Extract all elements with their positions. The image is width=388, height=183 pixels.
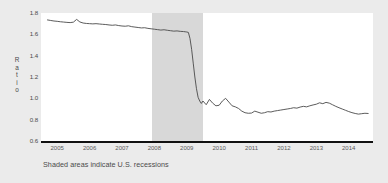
y-axis-title-char: i: [12, 79, 22, 87]
y-tick-label: 1.0: [30, 95, 38, 101]
y-axis-title-char: R: [12, 56, 22, 64]
x-tick-label: 2011: [245, 145, 258, 151]
y-axis-title: Ratio: [12, 56, 22, 94]
y-tick-label: 0.6: [30, 138, 38, 144]
y-axis-tick-labels: 1.81.61.41.21.00.80.6: [22, 0, 38, 183]
y-tick-label: 1.8: [30, 10, 38, 16]
x-axis-line: [41, 141, 373, 143]
y-axis-title-char: t: [12, 71, 22, 79]
recession-annotation: Shaded areas indicate U.S. recessions: [43, 160, 169, 169]
y-axis-title-char: o: [12, 86, 22, 94]
y-tick-label: 1.4: [30, 53, 38, 59]
x-tick-label: 2005: [51, 145, 64, 151]
y-tick-label: 0.8: [30, 117, 38, 123]
x-tick-label: 2013: [310, 145, 323, 151]
x-axis-tick-labels: 2005200620072008200920102011201220132014: [41, 145, 373, 157]
x-tick-label: 2006: [83, 145, 96, 151]
y-axis-title-char: a: [12, 64, 22, 72]
chart-figure: Ratio 1.81.61.41.21.00.80.6 200520062007…: [0, 0, 388, 183]
plot-area: [41, 13, 373, 141]
x-tick-label: 2008: [148, 145, 161, 151]
x-tick-label: 2007: [115, 145, 128, 151]
x-tick-label: 2014: [342, 145, 355, 151]
x-tick-label: 2009: [180, 145, 193, 151]
y-tick-label: 1.6: [30, 31, 38, 37]
x-tick-label: 2010: [212, 145, 225, 151]
y-tick-label: 1.2: [30, 74, 38, 80]
data-line-series: [41, 13, 373, 141]
x-tick-label: 2012: [277, 145, 290, 151]
